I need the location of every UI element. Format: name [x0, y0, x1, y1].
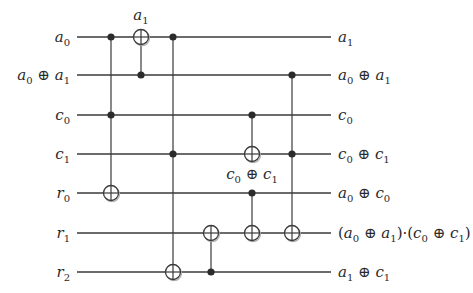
- control-dot-icon: [248, 189, 255, 196]
- xor-target-icon: [245, 226, 261, 242]
- circuit-diagram: a0​a1​a0​ ⊕ a1​a0​ ⊕ a1​c0​c0​c1​c0​ ⊕ c…: [0, 0, 473, 293]
- control-dot-icon: [288, 71, 295, 78]
- xor-target-icon: [104, 186, 120, 202]
- wire-input-label: a0​ ⊕ a1​: [17, 66, 70, 86]
- control-dot-icon: [248, 111, 255, 118]
- control-dot-icon: [169, 150, 176, 157]
- control-dot-icon: [169, 33, 176, 40]
- wire-input-label: r2​: [56, 263, 70, 283]
- xor-target-icon: [134, 30, 150, 46]
- control-dot-icon: [288, 150, 295, 157]
- wire-input-label: c0​: [55, 106, 70, 126]
- wire-output-label: a1​: [338, 28, 353, 48]
- control-dot-icon: [207, 268, 214, 275]
- wire-output-label: a1​ ⊕ c1​: [338, 263, 390, 283]
- wire-output-label: (a0​ ⊕ a1​)·(c0​ ⊕ c1​): [338, 224, 471, 244]
- wire-output-label: a0​ ⊕ c0​: [338, 184, 390, 204]
- xor-target-icon: [204, 226, 220, 242]
- wire-input-label: r0​: [56, 184, 70, 204]
- labels-layer: a0​a1​a0​ ⊕ a1​a0​ ⊕ a1​c0​c0​c1​c0​ ⊕ c…: [17, 6, 470, 283]
- control-dot-icon: [107, 33, 114, 40]
- wire-output-label: c0​ ⊕ c1​: [338, 145, 390, 165]
- wire-output-label: a0​ ⊕ a1​: [338, 66, 391, 86]
- wire-input-label: c1​: [55, 145, 70, 165]
- xor-target-icon: [166, 265, 182, 281]
- wire-output-label: c0​: [338, 106, 353, 126]
- gates-layer: [104, 30, 301, 281]
- xor-target-icon: [285, 226, 301, 242]
- control-dot-icon: [107, 111, 114, 118]
- wire-input-label: a0​: [55, 28, 70, 48]
- control-dot-icon: [137, 71, 144, 78]
- gate-annotation-label: a1​: [133, 6, 148, 26]
- gate-annotation-label: c0​ ⊕ c1​: [226, 165, 278, 185]
- xor-target-icon: [245, 147, 261, 163]
- wire-input-label: r1​: [56, 224, 70, 244]
